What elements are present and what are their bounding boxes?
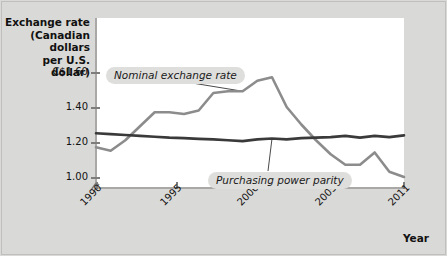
y-tick-label-4: 1.00	[28, 171, 88, 182]
y-tick-label-1: C$1.60	[28, 66, 88, 77]
y-tick-mark-2	[91, 107, 100, 109]
y-tick-label-3: 1.20	[28, 136, 88, 147]
plot-area	[96, 18, 404, 188]
series-label-purchasing-power-parity: Purchasing power parity	[208, 172, 352, 189]
y-tick-mark-1	[91, 72, 100, 74]
x-tick-label-1990: 1990	[78, 182, 104, 208]
y-tick-label-2: 1.40	[28, 101, 88, 112]
y-axis-line	[95, 18, 97, 188]
x-axis-title: Year	[403, 232, 429, 244]
y-tick-mark-3	[91, 142, 100, 144]
exchange-rate-figure: Exchange rate (Canadian dollars per U.S.…	[0, 0, 447, 256]
series-label-nominal-exchange-rate: Nominal exchange rate	[106, 67, 245, 84]
